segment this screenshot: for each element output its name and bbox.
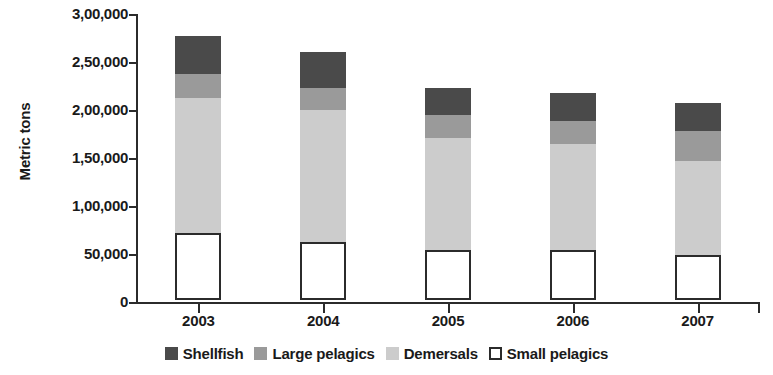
- bar-2003: [175, 36, 221, 300]
- y-axis-tick-mark: [129, 14, 137, 16]
- bar-segment-demersals: [550, 144, 596, 251]
- bar-segment-small-pelagics: [300, 242, 346, 300]
- legend-item-demersals[interactable]: Demersals: [386, 345, 478, 362]
- legend-label: Small pelagics: [507, 345, 608, 362]
- bar-segment-demersals: [300, 110, 346, 242]
- x-axis-label-2003: 2003: [138, 312, 258, 329]
- bar-2007: [675, 103, 721, 300]
- bar-segment-demersals: [675, 161, 721, 255]
- y-axis-tick-label: 50,000: [28, 246, 128, 261]
- bar-segment-shellfish: [675, 103, 721, 131]
- legend-label: Large pelagics: [272, 345, 374, 362]
- bar-2005: [425, 88, 471, 300]
- chart-legend: ShellfishLarge pelagicsDemersalsSmall pe…: [0, 345, 773, 362]
- bar-segment-small-pelagics: [675, 255, 721, 300]
- bar-segment-small-pelagics: [175, 233, 221, 300]
- bar-segment-large-pelagics: [675, 131, 721, 161]
- bar-segment-small-pelagics: [550, 250, 596, 300]
- bar-segment-large-pelagics: [175, 74, 221, 98]
- y-axis-tick-mark: [129, 62, 137, 64]
- legend-label: Demersals: [404, 345, 478, 362]
- y-axis-tick-label: 1,00,000: [28, 198, 128, 213]
- x-axis-label-2006: 2006: [513, 312, 633, 329]
- x-axis-label-2004: 2004: [263, 312, 383, 329]
- bar-segment-shellfish: [300, 52, 346, 88]
- y-axis-tick-label: 2,50,000: [28, 54, 128, 69]
- bar-segment-shellfish: [175, 36, 221, 74]
- bar-segment-large-pelagics: [425, 115, 471, 138]
- y-axis-tick-mark: [129, 110, 137, 112]
- bar-segment-small-pelagics: [425, 250, 471, 300]
- plot-area: [136, 14, 760, 302]
- bar-2004: [300, 52, 346, 300]
- legend-item-shellfish[interactable]: Shellfish: [165, 345, 244, 362]
- bar-segment-large-pelagics: [300, 88, 346, 110]
- legend-swatch-icon: [489, 347, 502, 360]
- bar-segment-demersals: [175, 98, 221, 232]
- y-axis-tick-mark: [129, 158, 137, 160]
- stacked-bar-chart: Metric tons 3,00,0002,50,0002,00,0001,50…: [0, 0, 773, 375]
- legend-label: Shellfish: [183, 345, 244, 362]
- legend-item-small-pelagics[interactable]: Small pelagics: [489, 345, 608, 362]
- y-axis-tick-mark: [129, 302, 137, 304]
- y-axis-tick-label: 3,00,000: [28, 6, 128, 21]
- bar-segment-shellfish: [425, 88, 471, 115]
- x-axis-tick-mark-end: [758, 304, 760, 313]
- legend-item-large-pelagics[interactable]: Large pelagics: [254, 345, 374, 362]
- y-axis-tick-label: 1,50,000: [28, 150, 128, 165]
- y-axis-tick-label: 0: [28, 294, 128, 309]
- bar-segment-large-pelagics: [550, 121, 596, 144]
- y-axis-tick-mark: [129, 206, 137, 208]
- legend-swatch-icon: [165, 347, 178, 360]
- x-axis-label-2005: 2005: [388, 312, 508, 329]
- legend-swatch-icon: [254, 347, 267, 360]
- y-axis-tick-mark: [129, 254, 137, 256]
- bar-segment-shellfish: [550, 93, 596, 121]
- bar-segment-demersals: [425, 138, 471, 250]
- legend-swatch-icon: [386, 347, 399, 360]
- bar-2006: [550, 93, 596, 300]
- x-axis-label-2007: 2007: [638, 312, 758, 329]
- y-axis-tick-label: 2,00,000: [28, 102, 128, 117]
- y-axis-tick-labels: 3,00,0002,50,0002,00,0001,50,0001,00,000…: [28, 0, 128, 320]
